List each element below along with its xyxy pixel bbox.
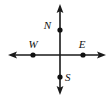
- point-n-marker: [57, 27, 62, 32]
- point-w-label: W: [28, 38, 38, 50]
- point-n-label: N: [43, 19, 52, 31]
- point-s-marker: [57, 74, 62, 79]
- point-s-label: S: [65, 71, 71, 83]
- compass-axes-figure: N W E S: [0, 0, 112, 99]
- axes-diagram-canvas: N W E S: [0, 0, 112, 99]
- point-w-marker: [30, 52, 35, 57]
- point-e-marker: [80, 52, 85, 57]
- point-e-label: E: [78, 38, 86, 50]
